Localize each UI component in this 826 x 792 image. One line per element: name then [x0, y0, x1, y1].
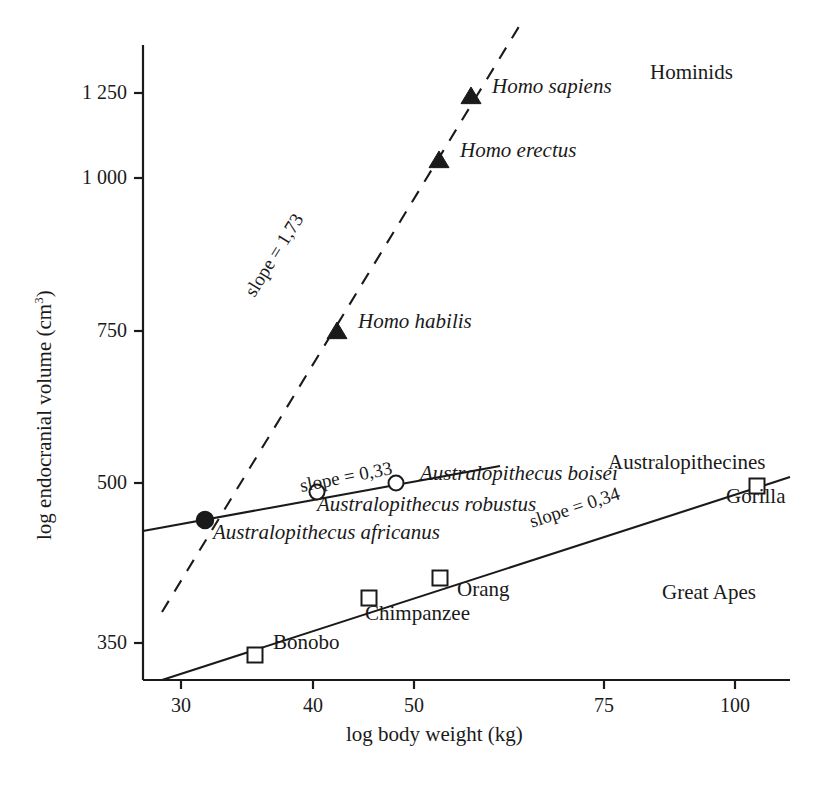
allometry-scatter-figure: log endocranial volume (cm3) log body we…	[0, 0, 826, 792]
point-label-chimpanzee: Chimpanzee	[365, 603, 470, 624]
plot-canvas	[0, 0, 826, 792]
y-axis-title-exponent: 3	[31, 297, 46, 304]
point-label-australopithecus-robustus: Australopithecus robustus	[317, 494, 536, 515]
x-axis-title: log body weight (kg)	[346, 724, 523, 745]
group-label-australopithecines: Australopithecines	[608, 452, 765, 473]
x-axis-tick-label: 40	[303, 695, 323, 715]
point-label-gorilla: Gorilla	[726, 486, 785, 507]
marker-open-square	[248, 648, 263, 663]
y-axis-tick-label: 350	[97, 632, 127, 652]
y-axis-tick-label: 1 250	[82, 82, 127, 102]
y-axis-tick-label: 500	[97, 472, 127, 492]
y-axis-title-paren: )	[32, 290, 56, 297]
group-label-great-apes: Great Apes	[662, 582, 756, 603]
x-axis-tick-label: 75	[594, 695, 614, 715]
point-label-homo-habilis: Homo habilis	[358, 311, 472, 332]
y-axis-title: log endocranial volume (cm3)	[34, 290, 55, 540]
point-label-homo-sapiens: Homo sapiens	[492, 76, 612, 97]
x-axis-tick-label: 100	[720, 695, 750, 715]
marker-filled-triangle	[429, 151, 449, 168]
y-axis-tick-label: 750	[97, 320, 127, 340]
marker-filled-triangle	[327, 322, 347, 339]
point-label-australopithecus-africanus: Australopithecus africanus	[213, 522, 440, 543]
point-label-australopithecus-boisei: Australopithecus boisei	[420, 463, 618, 484]
point-label-orang: Orang	[457, 579, 509, 600]
group-label-hominids: Hominids	[650, 62, 733, 83]
marker-filled-circle	[197, 512, 214, 529]
marker-open-square	[433, 571, 448, 586]
y-axis-title-text: log endocranial volume (cm	[32, 304, 56, 540]
point-label-bonobo: Bonobo	[273, 632, 340, 653]
y-axis-tick-label: 1 000	[82, 167, 127, 187]
x-axis-tick-label: 30	[171, 695, 191, 715]
point-label-homo-erectus: Homo erectus	[460, 140, 576, 161]
x-axis-tick-label: 50	[404, 695, 424, 715]
